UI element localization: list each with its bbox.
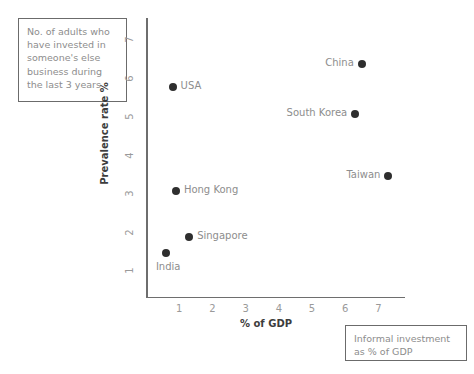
- callout-gdp-definition: Informal investment as % of GDP: [345, 325, 467, 361]
- y-tick-label: 2: [124, 223, 135, 241]
- y-axis-title: Prevalence rate %: [99, 74, 110, 194]
- data-point-label: USA: [181, 80, 202, 91]
- x-axis-title: % of GDP: [206, 318, 326, 329]
- x-tick-label: 5: [303, 303, 321, 314]
- data-point[interactable]: [185, 233, 193, 241]
- x-tick-label: 3: [237, 303, 255, 314]
- scatter-chart: No. of adults who have invested in someo…: [0, 0, 474, 374]
- x-tick-label: 6: [336, 303, 354, 314]
- data-point[interactable]: [384, 172, 392, 180]
- x-tick-label: 1: [170, 303, 188, 314]
- data-point[interactable]: [162, 249, 170, 257]
- x-tick-label: 4: [270, 303, 288, 314]
- y-tick-label: 6: [124, 69, 135, 87]
- data-point-label: Taiwan: [346, 169, 380, 180]
- y-tick-label: 5: [124, 108, 135, 126]
- data-point-label: China: [325, 57, 354, 68]
- y-tick-label: 4: [124, 146, 135, 164]
- data-point[interactable]: [358, 60, 366, 68]
- y-tick-label: 7: [124, 31, 135, 49]
- y-axis-line: [146, 18, 148, 298]
- data-point[interactable]: [351, 110, 359, 118]
- data-point[interactable]: [169, 83, 177, 91]
- x-tick-label: 2: [203, 303, 221, 314]
- y-tick-label: 1: [124, 261, 135, 279]
- data-point-label: India: [156, 261, 181, 272]
- y-tick-label: 3: [124, 185, 135, 203]
- data-point-label: Hong Kong: [184, 184, 238, 195]
- callout-prevalence-definition: No. of adults who have invested in someo…: [18, 18, 127, 102]
- x-tick-label: 7: [369, 303, 387, 314]
- x-axis-line: [146, 297, 405, 299]
- data-point[interactable]: [172, 187, 180, 195]
- data-point-label: South Korea: [287, 107, 348, 118]
- data-point-label: Singapore: [197, 230, 247, 241]
